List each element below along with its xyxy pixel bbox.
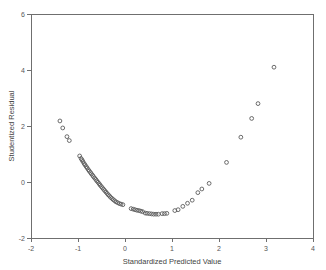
- data-points-layer: [58, 65, 276, 216]
- y-tick-label: 0: [21, 179, 25, 186]
- plot-canvas: -2-101234 -20246 Standardized Predicted …: [0, 0, 326, 270]
- x-tick-label: 2: [217, 245, 221, 252]
- data-point: [225, 161, 229, 165]
- data-point: [256, 102, 260, 106]
- data-point: [65, 135, 69, 139]
- axes-group: [31, 14, 313, 238]
- x-tick-label: 4: [311, 245, 315, 252]
- y-tick-label: 4: [21, 67, 25, 74]
- data-point: [61, 126, 65, 130]
- data-point: [196, 191, 200, 195]
- data-point: [186, 201, 190, 205]
- x-tick-label: 1: [170, 245, 174, 252]
- x-axis-ticks: -2-101234: [28, 238, 315, 252]
- scatter-plot-figure: -2-101234 -20246 Standardized Predicted …: [0, 0, 326, 270]
- x-tick-label: 0: [123, 245, 127, 252]
- y-axis-ticks: -20246: [19, 11, 31, 242]
- y-axis-title: Studentized Residual: [7, 90, 16, 161]
- data-point: [207, 182, 211, 186]
- data-point: [200, 187, 204, 191]
- x-axis-title: Standardized Predicted Value: [123, 257, 222, 266]
- y-tick-label: 6: [21, 11, 25, 18]
- data-point: [190, 198, 194, 202]
- data-point: [165, 211, 169, 215]
- data-point: [250, 117, 254, 121]
- x-tick-label: -2: [28, 245, 34, 252]
- data-point: [181, 204, 185, 208]
- data-point: [67, 139, 71, 143]
- x-tick-label: 3: [264, 245, 268, 252]
- x-tick-label: -1: [75, 245, 81, 252]
- data-point: [58, 119, 62, 123]
- y-tick-label: 2: [21, 123, 25, 130]
- data-point: [272, 65, 276, 69]
- data-point: [239, 135, 243, 139]
- y-tick-label: -2: [19, 235, 25, 242]
